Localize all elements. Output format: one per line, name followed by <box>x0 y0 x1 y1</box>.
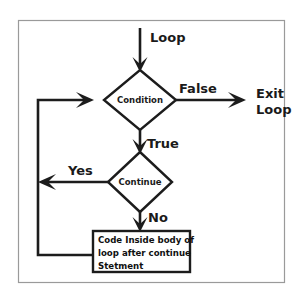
condition-label: Condition <box>117 95 163 105</box>
exit-loop-label-line2: Loop <box>256 102 291 117</box>
body-code-line-3: Stetment <box>98 261 143 271</box>
true-label: True <box>147 136 179 151</box>
continue-label: Continue <box>119 177 162 187</box>
body-code-line-2: loop after continue <box>98 248 191 258</box>
loop-label: Loop <box>150 30 185 45</box>
no-label: No <box>148 210 168 225</box>
false-label: False <box>179 81 217 96</box>
exit-loop-label-line1: Exit <box>256 86 284 101</box>
flowchart-canvas: Loop Condition False Exit Loop True Cont… <box>0 0 302 296</box>
flowchart-figure: Loop Condition False Exit Loop True Cont… <box>0 0 302 296</box>
body-code-line-1: Code Inside body of <box>98 235 194 245</box>
yes-label: Yes <box>67 163 93 178</box>
